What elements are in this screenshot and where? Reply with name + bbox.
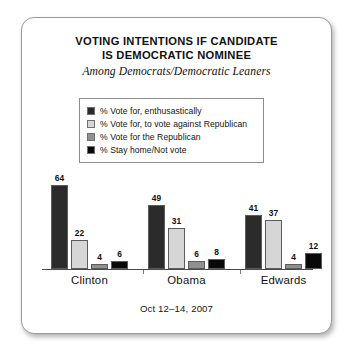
chart-legend: % Vote for, enthusastically % Vote for, … bbox=[79, 98, 264, 163]
bar-item: 49 bbox=[148, 158, 165, 269]
bar-value-label: 31 bbox=[172, 217, 181, 226]
legend-item-label: % Stay home/Not vote bbox=[100, 145, 187, 155]
bar-item: 8 bbox=[208, 158, 225, 269]
bar-value-label: 37 bbox=[269, 209, 278, 218]
bar-item: 6 bbox=[111, 158, 128, 269]
bar-group-clinton: 642246 bbox=[48, 158, 131, 269]
category-axis-labels: ClintonObamaEdwards bbox=[30, 274, 323, 290]
bar-value-label: 8 bbox=[214, 248, 219, 257]
bar-item: 64 bbox=[51, 158, 68, 269]
bar bbox=[168, 228, 185, 269]
bar bbox=[305, 253, 322, 269]
bar-item: 22 bbox=[71, 158, 88, 269]
bar bbox=[51, 185, 68, 269]
legend-item: % Vote for, enthusastically bbox=[87, 105, 256, 117]
bar-value-label: 64 bbox=[55, 174, 64, 183]
legend-item-label: % Vote for, enthusastically bbox=[100, 106, 202, 116]
bar bbox=[245, 215, 262, 269]
category-label-obama: Obama bbox=[145, 274, 228, 286]
bar bbox=[91, 264, 108, 269]
category-label-clinton: Clinton bbox=[48, 274, 131, 286]
legend-swatch-icon bbox=[87, 120, 95, 128]
bar-value-label: 12 bbox=[309, 242, 318, 251]
bar-value-label: 4 bbox=[291, 253, 296, 262]
chart-title-line-1: VOTING INTENTIONS IF CANDIDATE bbox=[22, 34, 331, 48]
bar-group-edwards: 4137412 bbox=[242, 158, 325, 269]
title-block: VOTING INTENTIONS IF CANDIDATE IS DEMOCR… bbox=[22, 34, 331, 78]
legend-item: % Vote for the Republican bbox=[87, 131, 256, 143]
bar bbox=[188, 261, 205, 269]
legend-swatch-icon bbox=[87, 146, 95, 154]
legend-swatch-icon bbox=[87, 107, 95, 115]
bar-item: 41 bbox=[245, 158, 262, 269]
chart-subtitle: Among Democrats/Democratic Leaners bbox=[22, 65, 331, 78]
bar-item: 4 bbox=[91, 158, 108, 269]
bar bbox=[265, 220, 282, 269]
bar-item: 6 bbox=[188, 158, 205, 269]
bar-item: 4 bbox=[285, 158, 302, 269]
bar-item: 37 bbox=[265, 158, 282, 269]
bar-item: 31 bbox=[168, 158, 185, 269]
bar bbox=[208, 259, 225, 270]
chart-card: VOTING INTENTIONS IF CANDIDATE IS DEMOCR… bbox=[21, 17, 332, 334]
bar-value-label: 22 bbox=[75, 229, 84, 238]
legend-item: % Vote for, to vote against Republican bbox=[87, 118, 256, 130]
legend-item: % Stay home/Not vote bbox=[87, 144, 256, 156]
bar-value-label: 49 bbox=[152, 194, 161, 203]
category-label-edwards: Edwards bbox=[242, 274, 325, 286]
chart-title-line-2: IS DEMOCRATIC NOMINEE bbox=[22, 48, 331, 62]
bar-item: 12 bbox=[305, 158, 322, 269]
legend-item-label: % Vote for the Republican bbox=[100, 132, 201, 142]
bar bbox=[148, 205, 165, 269]
bar-value-label: 41 bbox=[249, 204, 258, 213]
bar bbox=[111, 261, 128, 269]
chart-footnote: Oct 12–14, 2007 bbox=[22, 303, 331, 314]
legend-item-label: % Vote for, to vote against Republican bbox=[100, 119, 247, 129]
plot-area: 6422464931684137412 bbox=[30, 158, 323, 270]
x-axis-line bbox=[42, 269, 313, 270]
bar-value-label: 6 bbox=[194, 250, 199, 259]
bar-value-label: 6 bbox=[117, 250, 122, 259]
bar-group-obama: 493168 bbox=[145, 158, 228, 269]
bar bbox=[285, 264, 302, 269]
legend-swatch-icon bbox=[87, 133, 95, 141]
bar bbox=[71, 240, 88, 269]
bar-value-label: 4 bbox=[97, 253, 102, 262]
